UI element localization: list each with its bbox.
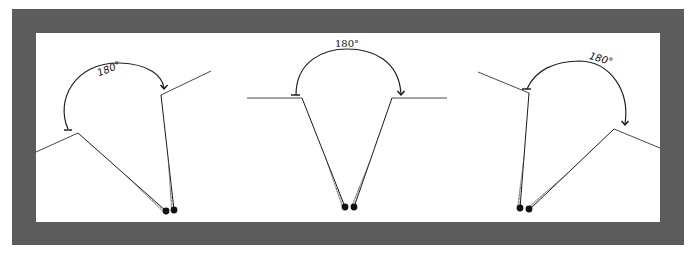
probe-tip-icon [526,206,533,213]
rotation-diagram: 180°180°180° [0,0,696,256]
probe-tip-icon [351,204,358,211]
probe-tip-icon [171,207,178,214]
probe-tip-icon [163,208,170,215]
angle-label: 180° [335,38,359,49]
probe-tip-icon [517,205,524,212]
probe-tip-icon [342,204,349,211]
